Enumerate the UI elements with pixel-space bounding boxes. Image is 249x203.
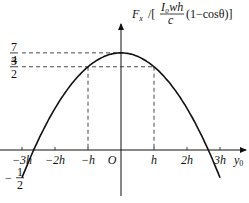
- x-tick-label: h: [151, 153, 157, 167]
- svg-text:−: −: [5, 171, 12, 185]
- y-tick-label: 32: [10, 54, 18, 81]
- chart: −3h−2h−hh2h3hOy07432−12 Fx /[ I₀wh c (1−…: [0, 0, 249, 203]
- ylabel-frac-den: c: [168, 13, 174, 27]
- x-axis-label: y0: [233, 153, 243, 168]
- y-tick-label: −12: [5, 165, 24, 192]
- origin-label: O: [108, 153, 117, 167]
- svg-text:3: 3: [11, 54, 17, 68]
- ylabel-bracket-open: /[: [148, 7, 155, 21]
- x-tick-label: 3h: [213, 153, 226, 167]
- ylabel-f: Fx: [131, 7, 143, 23]
- x-tick-label: −2h: [45, 153, 65, 167]
- svg-text:2: 2: [17, 178, 23, 192]
- svg-text:2: 2: [11, 67, 17, 81]
- ylabel-frac-num: I₀wh: [160, 0, 183, 14]
- tick-labels: −3h−2h−hh2h3hOy07432−12: [5, 40, 243, 192]
- ylabel-suffix: (1−cosθ)]: [186, 7, 233, 21]
- svg-text:1: 1: [17, 165, 23, 179]
- x-tick-label: −h: [81, 153, 95, 167]
- x-tick-label: 2h: [181, 153, 193, 167]
- y-axis-label: Fx /[ I₀wh c (1−cosθ)]: [131, 0, 233, 27]
- svg-text:7: 7: [11, 40, 17, 54]
- axes: [0, 24, 246, 196]
